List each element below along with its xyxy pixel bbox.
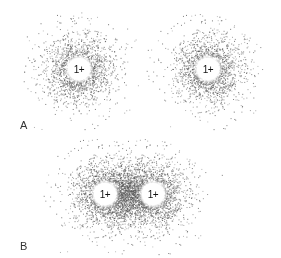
- electron-cloud-canvas: [0, 0, 281, 258]
- panel-label-b: B: [20, 240, 27, 252]
- nucleus-b-1: 1+: [94, 183, 116, 205]
- nucleus-a-2: 1+: [197, 58, 219, 80]
- nucleus-b-2: 1+: [142, 183, 164, 205]
- nucleus-a-1: 1+: [68, 58, 90, 80]
- panel-label-a: A: [20, 119, 27, 131]
